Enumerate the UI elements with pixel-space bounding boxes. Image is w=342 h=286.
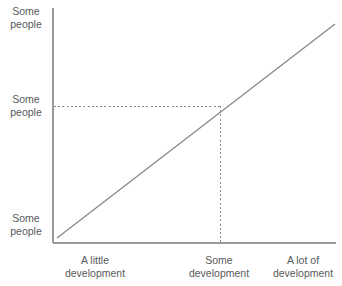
- x-tick-left-line2: development: [35, 267, 155, 280]
- x-tick-right-line1: A lot of: [243, 254, 342, 267]
- chart-plot-area: [0, 0, 342, 286]
- y-tick-top-line2: people: [0, 18, 52, 31]
- x-tick-left-line1: A little: [35, 254, 155, 267]
- y-axis-tick-label-top: Some people: [0, 5, 52, 31]
- x-axis-tick-label-a-lot-of-development: A lot of development: [243, 254, 342, 280]
- y-tick-top-line1: Some: [0, 5, 52, 18]
- x-tick-right-line2: development: [243, 267, 342, 280]
- y-tick-middle-line2: people: [0, 106, 52, 119]
- y-axis-tick-label-bottom: Some people: [0, 212, 52, 238]
- y-tick-bottom-line2: people: [0, 225, 52, 238]
- y-tick-bottom-line1: Some: [0, 212, 52, 225]
- data-line: [57, 24, 335, 238]
- chart-container: Some people Some people Some people A li…: [0, 0, 342, 286]
- x-axis-tick-label-a-little-development: A little development: [35, 254, 155, 280]
- y-tick-middle-line1: Some: [0, 93, 52, 106]
- y-axis-tick-label-middle: Some people: [0, 93, 52, 119]
